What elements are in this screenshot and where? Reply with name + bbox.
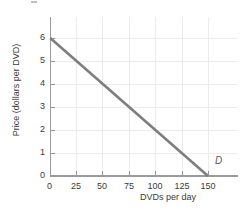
x-tick-label-100: 100 — [142, 182, 168, 191]
y-tick-1 — [50, 153, 55, 154]
x-tick-label-50: 50 — [89, 182, 115, 191]
x-tick-label-150: 150 — [195, 182, 221, 191]
y-tick-3 — [50, 107, 55, 108]
y-tick-label-0: 0 — [31, 171, 45, 180]
gridline-x-75 — [129, 17, 130, 175]
x-tick-125 — [182, 171, 183, 176]
y-tick-label-1: 1 — [31, 148, 45, 157]
gridline-x-50 — [102, 17, 103, 175]
y-tick-label-4: 4 — [31, 79, 45, 88]
gridline-x-150 — [208, 17, 209, 175]
y-tick-label-2: 2 — [31, 125, 45, 134]
x-axis-line — [50, 175, 238, 177]
gridline-x-125 — [182, 17, 183, 175]
y-tick-2 — [50, 130, 55, 131]
gridline-x-100 — [155, 17, 156, 175]
top-edge-artifact — [31, 1, 37, 3]
x-axis-title: DVDs per day — [140, 192, 196, 202]
x-tick-label-75: 75 — [116, 182, 142, 191]
gridline-x-25 — [76, 17, 77, 175]
x-tick-50 — [102, 171, 103, 176]
y-tick-label-6: 6 — [31, 33, 45, 42]
demand-curve-label: D — [215, 155, 222, 166]
y-tick-6 — [50, 38, 55, 39]
x-tick-75 — [129, 171, 130, 176]
x-tick-label-0: 0 — [37, 182, 63, 191]
x-tick-25 — [76, 171, 77, 176]
x-tick-150 — [208, 171, 209, 176]
y-tick-label-5: 5 — [31, 56, 45, 65]
y-tick-5 — [50, 61, 55, 62]
x-tick-label-25: 25 — [63, 182, 89, 191]
demand-curve-figure: 6 5 4 3 2 1 0 0 25 50 75 100 125 150 D P… — [0, 0, 249, 214]
y-axis-title: Price (dollars per DVD) — [11, 20, 21, 160]
x-tick-100 — [155, 171, 156, 176]
y-tick-label-3: 3 — [31, 102, 45, 111]
x-tick-label-125: 125 — [169, 182, 195, 191]
y-tick-4 — [50, 84, 55, 85]
